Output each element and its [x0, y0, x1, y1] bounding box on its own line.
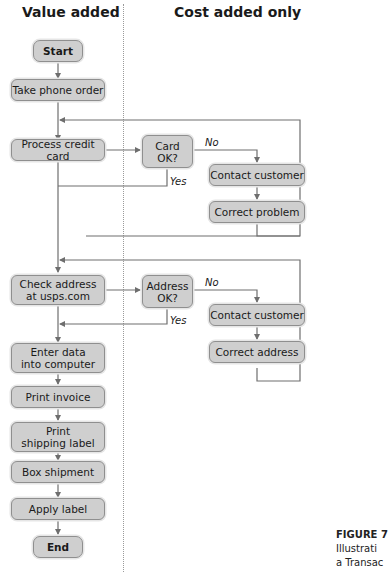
node-card-ok: Card OK? — [142, 135, 193, 168]
node-address-ok: Address OK? — [142, 275, 193, 308]
figure-caption: FIGURE 7 Illustrati a Transac — [336, 528, 388, 570]
figure-number: FIGURE 7 — [336, 528, 388, 542]
node-end: End — [33, 536, 83, 558]
node-contact-customer-2: Contact customer — [209, 304, 305, 326]
node-correct-problem: Correct problem — [209, 201, 305, 223]
caption-line-1: Illustrati — [336, 542, 388, 556]
edge-card-no — [193, 150, 257, 162]
label-card-no: No — [205, 137, 219, 148]
edge-address-yes — [60, 308, 167, 324]
node-start: Start — [33, 40, 83, 62]
node-enter-data: Enter data into computer — [11, 343, 105, 373]
caption-line-2: a Transac — [336, 556, 388, 570]
node-box-shipment: Box shipment — [11, 461, 105, 483]
edge-correct-problem-loop — [257, 223, 300, 236]
node-correct-address: Correct address — [209, 341, 305, 363]
node-print-shipping-label: Print shipping label — [11, 422, 105, 452]
node-contact-customer-1: Contact customer — [209, 164, 305, 186]
label-card-yes: Yes — [170, 176, 186, 187]
node-process-credit-card: Process credit card — [11, 139, 105, 161]
edge-card-yes — [58, 168, 167, 186]
node-take-phone-order: Take phone order — [11, 79, 105, 101]
node-print-invoice: Print invoice — [11, 386, 105, 408]
edge-address-no — [193, 290, 257, 302]
node-apply-label: Apply label — [11, 498, 105, 520]
label-address-no: No — [205, 277, 219, 288]
label-address-yes: Yes — [170, 315, 186, 326]
node-check-address: Check address at usps.com — [11, 275, 105, 305]
